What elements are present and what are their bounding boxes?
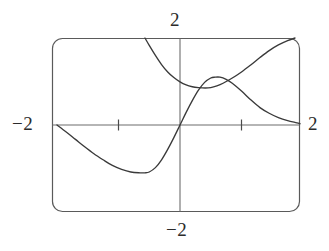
y-min-label: −2 — [166, 220, 187, 239]
y-max-label: 2 — [170, 10, 180, 29]
x-max-label: 2 — [308, 114, 318, 133]
graph-figure: 2 −2 −2 2 — [0, 0, 329, 251]
plot-canvas — [0, 0, 329, 251]
x-min-label: −2 — [12, 114, 33, 133]
